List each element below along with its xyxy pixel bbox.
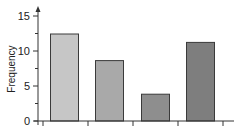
y-tick-label-10: 10: [18, 45, 30, 57]
y-axis-arrow-icon: [36, 6, 41, 12]
bar-3: [142, 94, 170, 121]
y-axis-title: Frequency: [6, 45, 17, 92]
bar-2: [96, 61, 124, 121]
y-ticks: [33, 16, 38, 121]
bar-4: [187, 42, 215, 121]
y-tick-label-0: 0: [24, 115, 30, 127]
bar-1: [51, 34, 79, 121]
bar-chart: Frequency 15 10 5 0: [0, 0, 238, 135]
bars: [51, 34, 215, 121]
y-tick-label-15: 15: [18, 10, 30, 22]
x-ticks: [43, 121, 223, 126]
y-tick-label-5: 5: [24, 80, 30, 92]
